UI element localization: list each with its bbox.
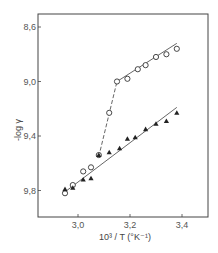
open-circle-marker [81, 169, 86, 174]
open-circle-marker [107, 110, 112, 115]
open-circle-marker [135, 67, 140, 72]
open-circle-marker [153, 54, 158, 59]
y-tick-label: 8,6 [23, 22, 36, 32]
open-circle-marker [114, 79, 119, 84]
plot-frame [38, 14, 208, 217]
y-tick-label: 9,8 [23, 186, 36, 196]
x-tick-label: 3,4 [176, 220, 189, 230]
open-circle-marker [88, 165, 93, 170]
filled-triangle-marker [62, 187, 67, 192]
x-tick-label: 3,0 [72, 220, 85, 230]
filled-triangle-marker [143, 127, 148, 132]
y-tick-label: 9,4 [23, 131, 36, 141]
open-circle-marker [174, 46, 179, 51]
filled-triangle-marker [88, 176, 93, 181]
y-axis-label: -log γ [13, 119, 23, 142]
filled-triangle-marker [164, 118, 169, 123]
x-tick-label: 3,2 [124, 220, 137, 230]
x-axis-label: 10³ / T (°K⁻¹) [99, 232, 151, 242]
x-axis-ticks: 3,03,23,4 [72, 214, 189, 230]
filled-triangle-marker [117, 146, 122, 151]
open-circle-marker [62, 191, 67, 196]
filled-triangle-marker [107, 150, 112, 155]
filled-triangle-marker [174, 110, 179, 115]
dashed-fit-line [99, 82, 117, 157]
chart: 3,03,23,4 8,69,09,49,8 10³ / T (°K⁻¹) -l… [0, 0, 218, 253]
open-circle-marker [164, 52, 169, 57]
data-markers [62, 46, 179, 196]
open-circle-marker [125, 76, 130, 81]
filled-triangle-marker [125, 136, 130, 141]
open-circle-marker [143, 63, 148, 68]
y-tick-label: 9,0 [23, 77, 36, 87]
